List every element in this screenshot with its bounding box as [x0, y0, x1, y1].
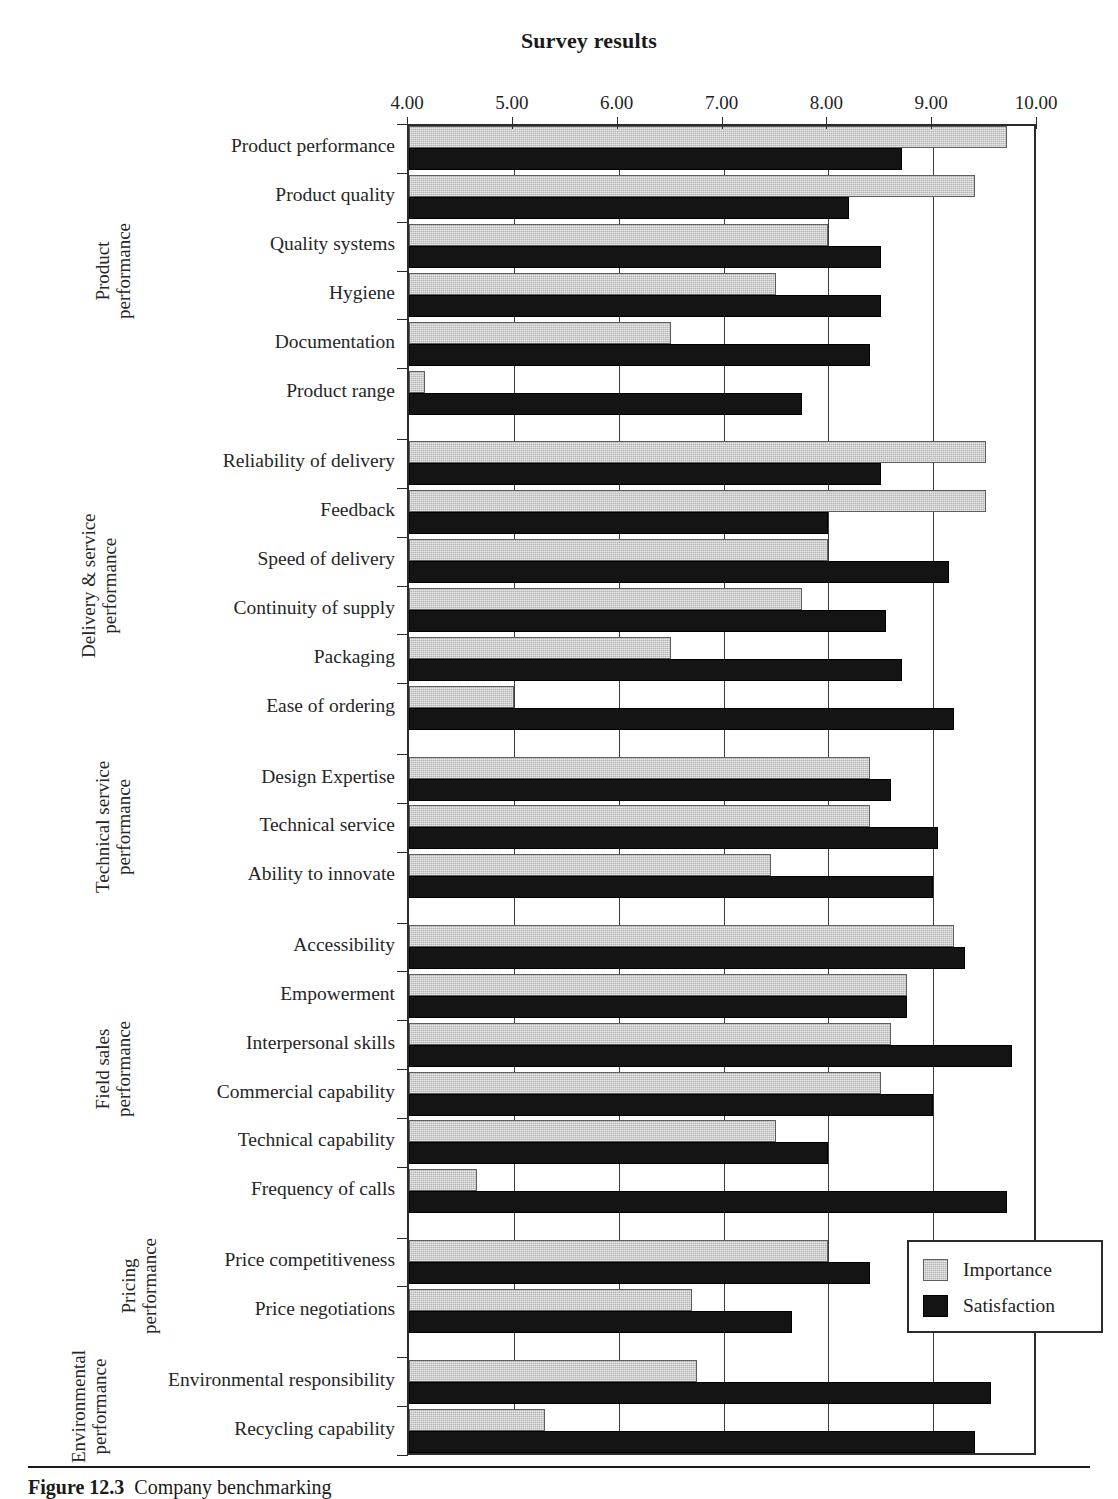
category-tick: [397, 173, 408, 174]
category-label: Documentation: [120, 332, 395, 352]
group-label-line: performance: [99, 513, 120, 658]
category-label: Product performance: [120, 136, 395, 156]
bar-importance: [409, 322, 671, 344]
category-tick: [397, 1238, 408, 1239]
bar-importance: [409, 539, 828, 561]
figure-caption: Figure 12.3 Company benchmarking: [28, 1476, 1090, 1499]
group-label-line: Environmental: [68, 1350, 89, 1463]
category-label: Design Expertise: [120, 767, 395, 787]
x-tick-label: 7.00: [705, 92, 738, 114]
bar-satisfaction: [409, 148, 902, 170]
bar-satisfaction: [409, 947, 965, 969]
bar-importance: [409, 854, 771, 876]
bar-satisfaction: [409, 344, 870, 366]
group-label-line: Product: [92, 223, 113, 319]
x-tick-mark: [722, 117, 723, 129]
category-label: Accessibility: [120, 935, 395, 955]
bar-satisfaction: [409, 1311, 792, 1333]
x-tick-mark: [512, 117, 513, 129]
category-label: Empowerment: [120, 984, 395, 1004]
category-label: Price negotiations: [120, 1299, 395, 1319]
category-tick: [397, 1167, 408, 1168]
legend-label-importance: Importance: [963, 1259, 1052, 1281]
category-tick: [397, 319, 408, 320]
x-tick-label: 9.00: [915, 92, 948, 114]
figure-survey-results: Survey results 4.005.006.007.008.009.001…: [0, 0, 1118, 1499]
category-label: Ease of ordering: [120, 696, 395, 716]
category-tick: [397, 1357, 408, 1358]
bar-importance: [409, 1169, 477, 1191]
category-tick: [397, 803, 408, 804]
bar-satisfaction: [409, 779, 891, 801]
bar-importance: [409, 637, 671, 659]
category-tick: [397, 852, 408, 853]
bar-satisfaction: [409, 1191, 1007, 1213]
category-tick: [397, 1118, 408, 1119]
category-label: Commercial capability: [120, 1082, 395, 1102]
group-label-line: performance: [139, 1238, 160, 1334]
bar-satisfaction: [409, 393, 802, 415]
category-tick: [397, 222, 408, 223]
category-label: Environmental responsibility: [120, 1370, 395, 1390]
category-tick: [397, 634, 408, 635]
x-tick-label: 4.00: [390, 92, 423, 114]
group-label: Pricingperformance: [118, 1238, 161, 1334]
x-tick-label: 6.00: [600, 92, 633, 114]
x-tick-mark: [617, 117, 618, 129]
bar-satisfaction: [409, 295, 881, 317]
category-label: Ability to innovate: [120, 864, 395, 884]
bar-satisfaction: [409, 876, 933, 898]
legend-item-importance: Importance: [923, 1252, 1101, 1288]
bar-satisfaction: [409, 1094, 933, 1116]
group-label-line: performance: [113, 761, 134, 893]
legend-swatch-satisfaction: [923, 1295, 948, 1317]
category-label: Technical service: [120, 815, 395, 835]
category-tick: [397, 1286, 408, 1287]
category-label: Recycling capability: [120, 1419, 395, 1439]
x-tick-mark: [826, 117, 827, 129]
bar-importance: [409, 686, 514, 708]
bar-importance: [409, 1023, 891, 1045]
category-label: Reliability of delivery: [120, 451, 395, 471]
category-label: Product quality: [120, 185, 395, 205]
bar-importance: [409, 441, 986, 463]
category-tick: [397, 1020, 408, 1021]
category-label: Continuity of supply: [120, 598, 395, 618]
category-label: Speed of delivery: [120, 549, 395, 569]
category-label: Hygiene: [120, 283, 395, 303]
bar-satisfaction: [409, 1262, 870, 1284]
bar-satisfaction: [409, 1431, 975, 1453]
bar-satisfaction: [409, 827, 938, 849]
group-label-line: performance: [113, 223, 134, 319]
figure-number: Figure 12.3: [28, 1476, 124, 1498]
category-tick: [397, 754, 408, 755]
x-tick-mark: [1036, 117, 1037, 129]
category-tick: [397, 923, 408, 924]
group-label-line: Delivery & service: [78, 513, 99, 658]
caption-text: Company benchmarking: [134, 1476, 331, 1498]
bar-importance: [409, 974, 907, 996]
category-label: Feedback: [120, 500, 395, 520]
bar-satisfaction: [409, 996, 907, 1018]
bar-importance: [409, 1240, 828, 1262]
bar-satisfaction: [409, 246, 881, 268]
category-label: Quality systems: [120, 234, 395, 254]
category-label: Packaging: [120, 647, 395, 667]
category-tick: [397, 1069, 408, 1070]
group-label: Environmentalperformance: [68, 1350, 111, 1463]
group-label-line: Technical service: [92, 761, 113, 893]
bar-importance: [409, 1409, 545, 1431]
chart-title: Survey results: [0, 28, 1118, 54]
bar-satisfaction: [409, 1382, 991, 1404]
bar-satisfaction: [409, 708, 954, 730]
bar-satisfaction: [409, 1045, 1012, 1067]
group-label-line: performance: [113, 1021, 134, 1117]
bar-importance: [409, 805, 870, 827]
bar-importance: [409, 757, 870, 779]
caption-separator: [124, 1476, 134, 1498]
category-label: Frequency of calls: [120, 1179, 395, 1199]
category-label: Price competitiveness: [120, 1250, 395, 1270]
x-axis-tick-labels: 4.005.006.007.008.009.0010.00: [407, 92, 1036, 118]
bar-importance: [409, 175, 975, 197]
category-label: Interpersonal skills: [120, 1033, 395, 1053]
